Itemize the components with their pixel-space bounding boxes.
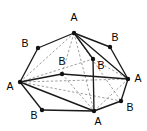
vertex-dot <box>40 108 44 112</box>
solid-edge <box>94 101 121 111</box>
vertex-label-a-bottom: A <box>94 115 101 127</box>
vertex-dot <box>119 99 123 103</box>
vertex-dot <box>36 46 40 50</box>
vertex-dot <box>60 72 64 76</box>
vertex-label-b-upright: B <box>111 31 118 43</box>
vertex-label-b-inleft: B <box>58 55 65 67</box>
vertex-dot <box>126 77 130 81</box>
solid-edge <box>62 74 128 79</box>
vertex-dot <box>91 57 95 61</box>
vertex-label-b-lowleft: B <box>30 109 37 121</box>
vertex-label-b-lowright: B <box>126 101 133 113</box>
solid-edge <box>110 47 128 79</box>
solid-edge <box>93 59 94 111</box>
vertex-dot <box>92 109 96 113</box>
polyhedron-figure: ABBAABBBAB <box>0 0 147 131</box>
vertex-dot <box>18 80 22 84</box>
vertex-dot <box>72 31 76 35</box>
dashed-edge-layer <box>20 33 128 111</box>
vertex-label-b-inright: B <box>97 59 104 71</box>
vertex-label-a-top: A <box>70 11 77 23</box>
solid-edge <box>74 33 128 79</box>
solid-edge <box>38 33 74 48</box>
dashed-edge <box>20 82 121 101</box>
solid-edge <box>20 48 38 82</box>
vertex-label-a-left: A <box>6 80 13 92</box>
solid-edge <box>42 110 94 111</box>
vertex-dot <box>108 45 112 49</box>
vertex-label-b-upleft: B <box>21 37 28 49</box>
vertex-label-a-right: A <box>134 72 141 84</box>
dashed-edge <box>74 33 94 111</box>
polyhedron-svg: ABBAABBBAB <box>0 0 147 131</box>
